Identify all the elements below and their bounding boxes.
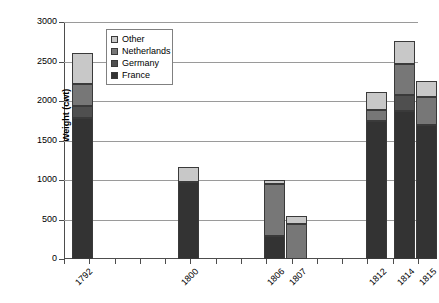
bar-segment-germany[interactable] <box>72 106 93 118</box>
y-axis-tick <box>59 141 64 142</box>
bar-1812[interactable] <box>366 92 387 259</box>
bar-segment-other[interactable] <box>286 216 307 225</box>
y-axis-tick-label: 0 <box>24 254 57 263</box>
y-axis-tick-label: 3000 <box>24 17 57 26</box>
bar-segment-france[interactable] <box>72 118 93 259</box>
legend-label-netherlands: Netherlands <box>122 47 171 56</box>
chart-legend: Other Netherlands Germany France <box>106 29 173 85</box>
x-axis-tick <box>89 259 90 264</box>
bar-segment-other[interactable] <box>394 41 415 64</box>
x-axis-tick <box>165 259 166 264</box>
y-axis-tick <box>59 101 64 102</box>
x-axis-tick <box>190 259 191 264</box>
bar-segment-france[interactable] <box>394 111 415 259</box>
x-axis-tick <box>266 259 267 264</box>
x-axis-tick <box>115 259 116 264</box>
x-axis-tick <box>393 259 394 264</box>
bar-segment-france[interactable] <box>416 125 437 259</box>
legend-label-other: Other <box>122 35 145 44</box>
y-axis-title: Weight (cwt) <box>61 89 71 142</box>
legend-swatch-france <box>111 72 118 79</box>
bar-segment-france[interactable] <box>264 236 285 259</box>
x-axis-tick <box>216 259 217 264</box>
x-axis-tick <box>292 259 293 264</box>
legend-swatch-germany <box>111 60 118 67</box>
y-axis-tick-label: 1500 <box>24 136 57 145</box>
bar-segment-other[interactable] <box>178 167 199 182</box>
legend-item-france: France <box>111 69 168 81</box>
gridline <box>64 22 418 23</box>
bar-1792[interactable] <box>72 53 93 259</box>
bar-1807[interactable] <box>286 216 307 259</box>
y-axis-tick-label: 500 <box>24 215 57 224</box>
x-axis-label-1807: 1807 <box>285 267 308 290</box>
bar-1806[interactable] <box>264 180 285 259</box>
bar-segment-netherlands[interactable] <box>286 224 307 259</box>
bar-segment-other[interactable] <box>416 81 437 97</box>
legend-swatch-other <box>111 36 118 43</box>
bar-segment-netherlands[interactable] <box>264 184 285 236</box>
y-axis-tick <box>59 220 64 221</box>
legend-item-netherlands: Netherlands <box>111 45 168 57</box>
x-axis-tick <box>64 259 65 264</box>
x-axis-label-1812: 1812 <box>365 267 388 290</box>
legend-item-germany: Germany <box>111 57 168 69</box>
bar-1800[interactable] <box>178 167 199 259</box>
y-axis-tick <box>59 180 64 181</box>
legend-item-other: Other <box>111 33 168 45</box>
x-axis-tick <box>140 259 141 264</box>
x-axis-label-1815: 1815 <box>415 267 438 290</box>
stacked-bar-chart: Weight (cwt) 050010001500200025003000 17… <box>0 0 439 303</box>
x-axis-tick <box>317 259 318 264</box>
bar-segment-germany[interactable] <box>394 95 415 111</box>
legend-swatch-netherlands <box>111 48 118 55</box>
x-axis-label-1792: 1792 <box>71 267 94 290</box>
x-axis-label-1806: 1806 <box>263 267 286 290</box>
bar-segment-netherlands[interactable] <box>416 97 437 125</box>
bar-1815[interactable] <box>416 81 437 259</box>
legend-label-germany: Germany <box>122 59 159 68</box>
y-axis-tick-label: 2000 <box>24 96 57 105</box>
y-axis-tick-label: 2500 <box>24 57 57 66</box>
y-axis-tick <box>59 22 64 23</box>
bar-1814[interactable] <box>394 41 415 259</box>
bar-segment-other[interactable] <box>72 53 93 84</box>
bar-segment-france[interactable] <box>366 121 387 259</box>
y-axis-tick-label: 1000 <box>24 175 57 184</box>
bar-segment-other[interactable] <box>264 180 285 184</box>
y-axis-tick <box>59 62 64 63</box>
bar-segment-netherlands[interactable] <box>394 64 415 96</box>
x-axis-tick <box>342 259 343 264</box>
legend-label-france: France <box>122 71 150 80</box>
x-axis-tick <box>418 259 419 264</box>
x-axis-label-1814: 1814 <box>393 267 416 290</box>
x-axis-label-1800: 1800 <box>177 267 200 290</box>
x-axis-tick <box>241 259 242 264</box>
bar-segment-netherlands[interactable] <box>366 110 387 120</box>
bar-segment-other[interactable] <box>366 92 387 110</box>
x-axis-tick <box>367 259 368 264</box>
bar-segment-france[interactable] <box>178 182 199 259</box>
bar-segment-netherlands[interactable] <box>72 84 93 106</box>
